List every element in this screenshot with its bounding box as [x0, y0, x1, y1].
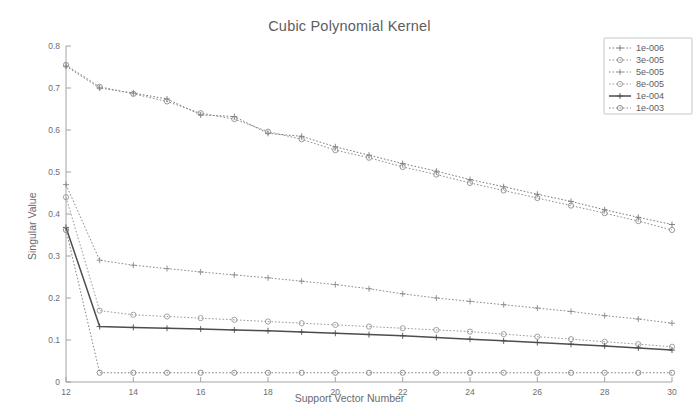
legend-label-5e-005: 5e-005: [636, 67, 664, 77]
series-1e-003: [63, 227, 674, 375]
series-5e-005: [63, 182, 675, 327]
series-line: [66, 230, 672, 373]
legend-label-1e-003: 1e-003: [636, 103, 664, 113]
legend: 1e-0063e-0055e-0058e-0051e-0041e-003: [604, 38, 692, 114]
y-tick-label: 0.2: [48, 293, 60, 303]
legend-label-8e-005: 8e-005: [636, 79, 664, 89]
y-tick-label: 0.7: [48, 83, 60, 93]
series-line: [66, 66, 672, 224]
legend-label-3e-005: 3e-005: [636, 55, 664, 65]
plot-area: 1214161820222426283000.10.20.30.40.50.60…: [0, 0, 699, 416]
y-tick-label: 0.5: [48, 167, 60, 177]
y-tick-label: 0.3: [48, 251, 60, 261]
y-tick-label: 0.8: [48, 41, 60, 51]
series-line: [66, 185, 672, 324]
legend-label-1e-004: 1e-004: [636, 91, 664, 101]
series-1e-006: [63, 63, 675, 227]
series-3e-005: [63, 62, 674, 232]
y-tick-label: 0.1: [48, 335, 60, 345]
y-tick-label: 0.4: [48, 209, 60, 219]
x-axis-label: Support Vector Number: [0, 392, 699, 404]
chart-figure: Cubic Polynomial Kernel 1214161820222426…: [0, 0, 699, 416]
y-axis-label: Singular Value: [26, 192, 38, 260]
y-tick-label: 0.6: [48, 125, 60, 135]
legend-label-1e-006: 1e-006: [636, 43, 664, 53]
series-8e-005: [63, 195, 674, 350]
y-tick-label: 0: [55, 377, 60, 387]
series-line: [66, 65, 672, 230]
